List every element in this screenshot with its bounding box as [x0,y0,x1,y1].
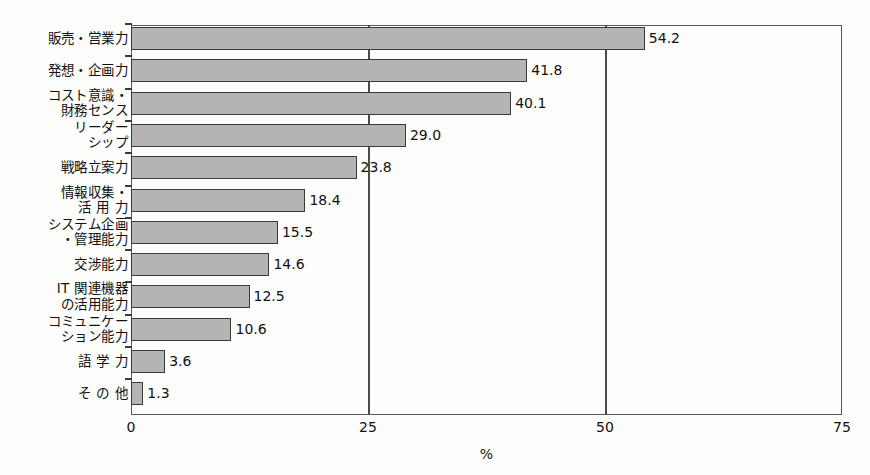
bar-value-label: 41.8 [531,62,562,78]
bar-value-label: 14.6 [273,256,304,272]
x-tick-label-50: 50 [585,419,625,435]
y-axis-tick [125,378,132,380]
category-label: 交渉能力 [0,257,128,272]
bar-value-label: 10.6 [235,321,266,337]
y-axis-tick [125,120,132,122]
bar-row: そ の 他1.3 [0,382,870,414]
bar [131,27,645,50]
x-axis-title: % [457,446,517,462]
x-tick-label-25: 25 [348,419,388,435]
bar-row: コスト意識・ 財務センス40.1 [0,92,870,124]
y-axis-tick [125,281,132,283]
bar [131,92,511,115]
bar-value-label: 15.5 [282,224,313,240]
category-label: 販売・営業力 [0,31,128,46]
bar-value-label: 23.8 [361,159,392,175]
x-tick-label-0: 0 [111,419,151,435]
bar-chart: 販売・営業力54.2発想・企画力41.8コスト意識・ 財務センス40.1リーダー… [0,0,870,475]
y-axis-tick [125,23,132,25]
category-label: システム企画 ・管理能力 [0,217,128,248]
bar [131,59,527,82]
bar [131,189,305,212]
category-label: コスト意識・ 財務センス [0,88,128,119]
y-axis-tick [125,346,132,348]
bar-row: 販売・営業力54.2 [0,27,870,59]
bar-value-label: 29.0 [410,127,441,143]
bar-row: 交渉能力14.6 [0,253,870,285]
bar-row: リーダー シップ29.0 [0,124,870,156]
bar [131,253,269,276]
bar-row: 戦略立案力23.8 [0,156,870,188]
y-axis-tick [125,152,132,154]
bar [131,156,357,179]
bar-value-label: 54.2 [649,30,680,46]
bar-row: システム企画 ・管理能力15.5 [0,221,870,253]
bar-row: 発想・企画力41.8 [0,59,870,91]
bar [131,285,250,308]
bar-row: 語 学 力3.6 [0,350,870,382]
bar-value-label: 12.5 [254,288,285,304]
bar-row: コミュニケー ション能力10.6 [0,318,870,350]
x-tick-label-75: 75 [822,419,862,435]
category-label: リーダー シップ [0,120,128,151]
category-label: 語 学 力 [0,354,128,369]
y-axis-tick [125,185,132,187]
bar-row: IT 関連機器 の活用能力12.5 [0,285,870,317]
bar-value-label: 3.6 [169,353,191,369]
bar [131,382,143,405]
y-axis-tick [125,314,132,316]
bar-value-label: 40.1 [515,95,546,111]
category-label: 情報収集・ 活 用 力 [0,185,128,216]
bar-row: 情報収集・ 活 用 力18.4 [0,189,870,221]
y-axis-tick [125,217,132,219]
y-axis-tick [125,55,132,57]
category-label: コミュニケー ション能力 [0,314,128,345]
y-axis-tick [125,88,132,90]
category-label: 戦略立案力 [0,160,128,175]
category-label: 発想・企画力 [0,63,128,78]
bar-value-label: 1.3 [147,385,169,401]
bar [131,350,165,373]
bar [131,221,278,244]
y-axis-tick [125,249,132,251]
category-label: そ の 他 [0,386,128,401]
bar [131,318,231,341]
category-label: IT 関連機器 の活用能力 [0,281,128,312]
bar-value-label: 18.4 [309,192,340,208]
bar [131,124,406,147]
